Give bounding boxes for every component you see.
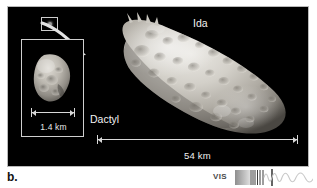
spectrum-band-label: VIS [213,172,227,181]
figure-caption-label: b. [7,170,18,184]
asteroid-dactyl-icon [28,50,78,108]
photo-canvas: Ida Dactyl [8,7,308,166]
label-ida: Ida [193,17,208,29]
scale-bar-ida [97,135,298,144]
arrowhead-right-icon [70,110,74,116]
spectrum-gradient-icon [235,170,250,185]
scale-label-dactyl: 1.4 km [22,122,84,132]
scale-bar-end-right [297,135,298,144]
scale-bar-line [97,139,298,140]
asteroid-photo-panel: Ida Dactyl [7,6,309,167]
asteroid-ida-icon [96,11,301,147]
label-dactyl: Dactyl [90,113,119,125]
scale-bar-line [31,112,75,113]
spectrum-strip [235,169,313,186]
spectrum-indicator: VIS [213,169,313,186]
arrowhead-right-icon [293,137,297,143]
scale-bar-dactyl [31,108,75,117]
scale-label-ida: 54 km [97,150,298,161]
spectrum-stripes-icon [251,170,263,185]
scale-bar-end-right [74,108,75,117]
dactyl-inset-panel: 1.4 km [21,39,84,137]
arrowhead-left-icon [98,137,102,143]
figure-panel-b: Ida Dactyl [0,0,317,188]
arrowhead-left-icon [32,110,36,116]
